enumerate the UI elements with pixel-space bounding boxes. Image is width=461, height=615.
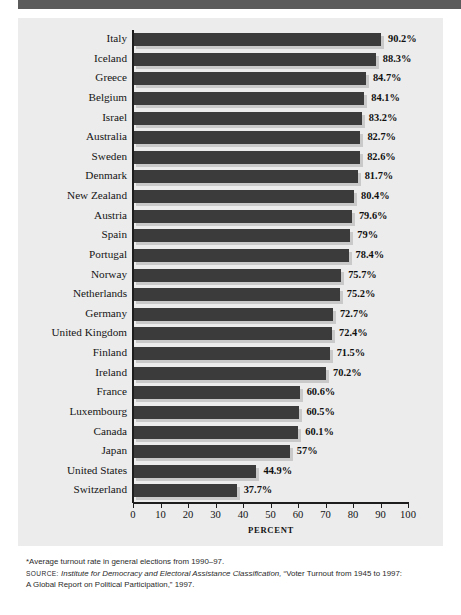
bar-wrapper: [133, 426, 298, 439]
bar-row: Netherlands75.2%: [133, 285, 408, 305]
category-label: Germany: [85, 305, 127, 325]
bar-wrapper: [133, 112, 362, 125]
bar: [133, 53, 376, 66]
x-tick: [408, 502, 409, 508]
bar-wrapper: [133, 210, 352, 223]
bar-row: Portugal78.4%: [133, 246, 408, 266]
bar: [133, 151, 360, 164]
category-label: Israel: [102, 109, 127, 129]
bar-row: Spain79%: [133, 226, 408, 246]
bar: [133, 131, 360, 144]
bar-row: Israel83.2%: [133, 109, 408, 129]
bar-row: Switzerland37.7%: [133, 481, 408, 501]
x-tick-label: 60: [293, 509, 304, 520]
source-institute: Institute for Democracy and Electoral As…: [61, 569, 281, 578]
x-tick: [161, 502, 162, 508]
category-label: United Kingdom: [51, 324, 127, 344]
bar-row: Italy90.2%: [133, 30, 408, 50]
bar-row: Iceland88.3%: [133, 50, 408, 70]
bar-row: Australia82.7%: [133, 128, 408, 148]
bar: [133, 308, 333, 321]
bar: [133, 288, 340, 301]
bar-value-label: 60.6%: [307, 383, 336, 403]
bar-value-label: 79.6%: [359, 207, 388, 227]
category-label: Austria: [94, 207, 127, 227]
bar-row: United States44.9%: [133, 462, 408, 482]
bar-value-label: 60.5%: [306, 403, 335, 423]
bar: [133, 269, 341, 282]
category-label: France: [97, 383, 127, 403]
x-tick-label: 100: [400, 509, 416, 520]
bar-row: Japan57%: [133, 442, 408, 462]
category-label: Greece: [95, 69, 127, 89]
category-label: Ireland: [95, 364, 127, 384]
bar-wrapper: [133, 484, 237, 497]
category-label: Denmark: [85, 167, 127, 187]
bar-value-label: 80.4%: [361, 187, 390, 207]
x-tick: [326, 502, 327, 508]
header-band: [18, 0, 461, 9]
bar-row: Austria79.6%: [133, 207, 408, 227]
bar: [133, 347, 330, 360]
category-label: Japan: [102, 442, 127, 462]
x-tick: [353, 502, 354, 508]
bar-wrapper: [133, 445, 290, 458]
bar-wrapper: [133, 269, 341, 282]
bar-wrapper: [133, 465, 256, 478]
bar-row: Luxembourg60.5%: [133, 403, 408, 423]
category-label: Netherlands: [73, 285, 127, 305]
category-label: New Zealand: [67, 187, 127, 207]
bar-wrapper: [133, 386, 300, 399]
bar-value-label: 37.7%: [244, 481, 273, 501]
category-label: Luxembourg: [69, 403, 127, 423]
category-label: Switzerland: [74, 481, 127, 501]
bar-wrapper: [133, 249, 349, 262]
category-label: Iceland: [94, 50, 127, 70]
category-label: Spain: [102, 226, 127, 246]
bar: [133, 406, 299, 419]
bar: [133, 112, 362, 125]
bar-wrapper: [133, 308, 333, 321]
bar: [133, 367, 326, 380]
x-tick-label: 90: [375, 509, 386, 520]
bar: [133, 249, 349, 262]
footnote-block: *Average turnout rate in general electio…: [26, 556, 446, 591]
bar-row: United Kingdom72.4%: [133, 324, 408, 344]
bar-value-label: 60.1%: [305, 423, 334, 443]
bar-value-label: 81.7%: [365, 167, 394, 187]
x-tick: [133, 502, 134, 508]
category-label: Norway: [91, 266, 127, 286]
bar-value-label: 71.5%: [337, 344, 366, 364]
bar-value-label: 88.3%: [383, 50, 412, 70]
bar: [133, 72, 366, 85]
plot-area: Italy90.2%Iceland88.3%Greece84.7%Belgium…: [133, 30, 408, 502]
bar-wrapper: [133, 151, 360, 164]
x-tick: [381, 502, 382, 508]
bar-wrapper: [133, 229, 350, 242]
y-axis-line: [132, 30, 134, 503]
x-tick-label: 10: [155, 509, 166, 520]
bar-wrapper: [133, 92, 364, 105]
x-tick: [216, 502, 217, 508]
bar-value-label: 82.6%: [367, 148, 396, 168]
bar-value-label: 90.2%: [388, 30, 417, 50]
bar-wrapper: [133, 53, 376, 66]
source-title-part1: “Voter Turnout from 1945 to 1997:: [284, 569, 402, 578]
category-label: Sweden: [92, 148, 127, 168]
x-tick: [188, 502, 189, 508]
bar-value-label: 84.7%: [373, 69, 402, 89]
category-label: Finland: [93, 344, 127, 364]
bar-row: Denmark81.7%: [133, 167, 408, 187]
bar: [133, 33, 381, 46]
x-tick-label: 30: [210, 509, 221, 520]
category-label: Australia: [86, 128, 127, 148]
footnote-line: *Average turnout rate in general electio…: [26, 556, 446, 568]
bar-wrapper: [133, 327, 332, 340]
source-label: Source:: [26, 570, 59, 577]
source-line-2: A Global Report on Political Participati…: [26, 579, 446, 591]
bar-wrapper: [133, 190, 354, 203]
category-label: Canada: [93, 423, 127, 443]
bar-wrapper: [133, 72, 366, 85]
x-tick-label: 40: [238, 509, 249, 520]
bar-row: Germany72.7%: [133, 305, 408, 325]
